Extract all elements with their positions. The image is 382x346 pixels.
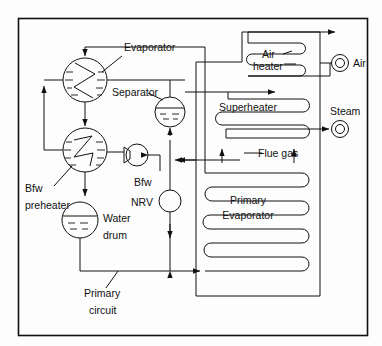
label-air-heater-line2: heater xyxy=(253,60,283,72)
separator-vessel xyxy=(155,97,185,127)
label-water-drum-line2: drum xyxy=(103,229,127,241)
label-bfw-preheater-line1: Bfw xyxy=(25,182,43,194)
bfw-preheater-vessel xyxy=(63,128,107,172)
label-nrv: NRV xyxy=(131,196,153,208)
label-superheater: Superheater xyxy=(219,101,277,113)
air-outlet-nozzle xyxy=(332,55,349,72)
label-bfw: Bfw xyxy=(134,176,152,188)
superheater-to-steam-line xyxy=(226,129,329,138)
label-air: Air xyxy=(353,57,366,69)
label-evaporator: Evaporator xyxy=(124,41,176,53)
steam-outlet-nozzle xyxy=(332,121,349,138)
label-separator: Separator xyxy=(112,86,159,98)
label-primary-evaporator-line2: Evaporator xyxy=(222,209,274,221)
label-air-heater-line1: Air xyxy=(262,48,275,60)
circulation-pump xyxy=(124,144,160,171)
label-bfw-preheater-line2: preheater xyxy=(25,199,70,211)
leader-bfw-preheater xyxy=(54,166,72,186)
air-heater-outlet-line xyxy=(248,32,335,43)
label-primary-evaporator-line1: Primary xyxy=(230,194,267,206)
label-primary-circuit-line2: circuit xyxy=(89,304,117,316)
evaporator-vessel xyxy=(63,58,107,102)
primary-loop-left-riser xyxy=(44,86,63,150)
primary-evaporator-coil xyxy=(203,173,309,271)
label-steam: Steam xyxy=(330,105,361,117)
label-water-drum-line1: Water xyxy=(103,212,131,224)
leader-evaporator xyxy=(102,56,122,72)
label-flue-gas: Flue gas xyxy=(258,147,298,159)
figure-canvas: Evaporator Separator Bfw preheater Bfw N… xyxy=(0,0,382,346)
leader-primary-circuit xyxy=(106,271,118,288)
water-drum-outlet-line xyxy=(80,238,200,271)
process-flow-diagram: Evaporator Separator Bfw preheater Bfw N… xyxy=(0,0,382,346)
figure-border xyxy=(19,19,368,336)
label-primary-circuit-line1: Primary xyxy=(84,287,121,299)
nrv-valve xyxy=(159,190,181,212)
